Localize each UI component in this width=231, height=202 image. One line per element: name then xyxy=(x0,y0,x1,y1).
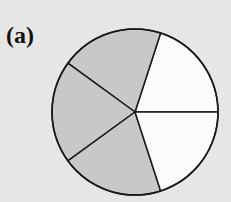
figure-canvas: (a) xyxy=(0,0,231,202)
sectors-group xyxy=(52,29,218,195)
fraction-circle-diagram xyxy=(0,0,231,202)
